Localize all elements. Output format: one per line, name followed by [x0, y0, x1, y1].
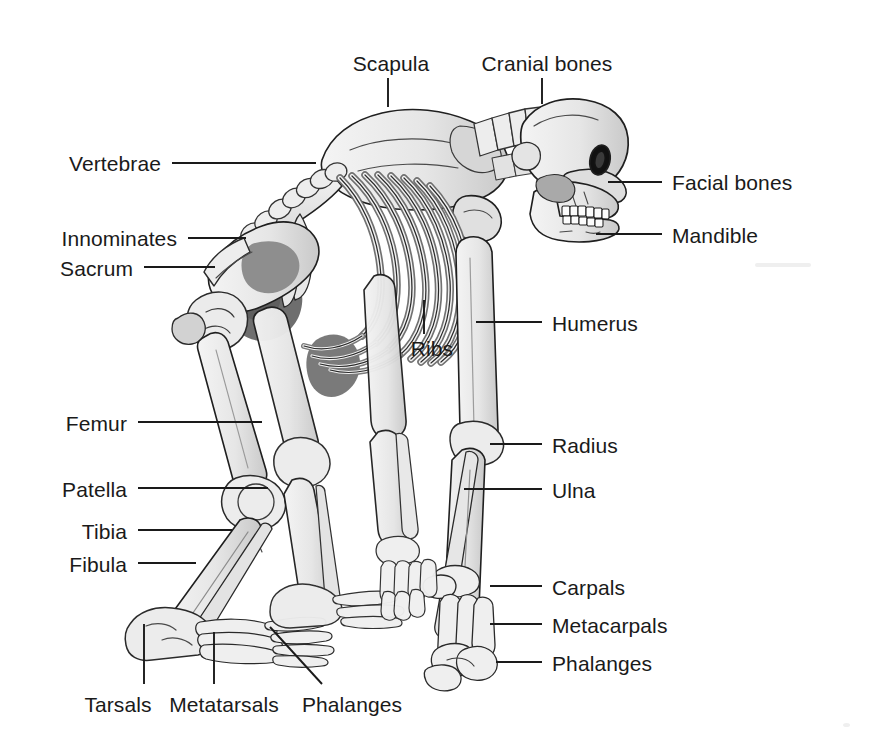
- bone-label-scapula: Scapula: [353, 53, 430, 74]
- bone-label-vertebrae: Vertebrae: [69, 153, 161, 174]
- bone-label-sacrum: Sacrum: [60, 258, 133, 279]
- bone-label-patella: Patella: [62, 479, 127, 500]
- bone-label-femur: Femur: [66, 413, 127, 434]
- bone-label-fibula: Fibula: [69, 554, 127, 575]
- bone-label-humerus: Humerus: [552, 313, 638, 334]
- bone-label-innominates: Innominates: [61, 228, 177, 249]
- scan-artifact: [755, 263, 811, 267]
- bone-label-phalanges-hand: Phalanges: [552, 653, 652, 674]
- bone-label-metacarpals: Metacarpals: [552, 615, 667, 636]
- bone-label-radius: Radius: [552, 435, 618, 456]
- humerus-bone: [450, 237, 504, 466]
- bone-label-cranial: Cranial bones: [482, 53, 613, 74]
- bone-label-ulna: Ulna: [552, 480, 596, 501]
- bone-label-phalanges-foot: Phalanges: [302, 694, 402, 715]
- bone-label-tarsals: Tarsals: [84, 694, 151, 715]
- skeleton-diagram: ScapulaCranial bonesVertebraeFacial bone…: [0, 0, 889, 743]
- gorilla-skeleton-illustration: [0, 0, 889, 743]
- bone-label-facial: Facial bones: [672, 172, 792, 193]
- skull: [512, 99, 628, 242]
- bone-label-metatarsals: Metatarsals: [169, 694, 279, 715]
- bone-label-tibia: Tibia: [82, 521, 127, 542]
- scan-artifact: [843, 723, 850, 727]
- bone-label-ribs: Ribs: [411, 338, 453, 359]
- femur-bone: [197, 333, 266, 491]
- bone-label-mandible: Mandible: [672, 225, 758, 246]
- bone-label-carpals: Carpals: [552, 577, 625, 598]
